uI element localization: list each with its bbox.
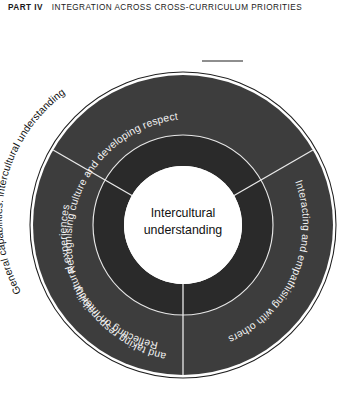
core-label-line2: understanding [144,223,223,237]
page-root: PART IV INTEGRATION ACROSS CROSS-CURRICU… [0,0,358,403]
wheel-svg: General capabilities: intercultural unde… [0,25,358,403]
diagram-intercultural-understanding-wheel: General capabilities: intercultural unde… [0,25,358,403]
part-number: PART IV [8,3,43,12]
page-header: PART IV INTEGRATION ACROSS CROSS-CURRICU… [8,3,302,12]
core-label-line1: Intercultural [151,206,216,220]
page-title: INTEGRATION ACROSS CROSS-CURRICULUM PRIO… [52,3,302,12]
